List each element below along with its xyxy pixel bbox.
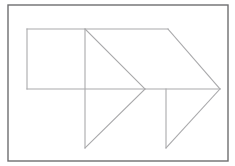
outer-frame — [8, 5, 228, 161]
drawing-canvas — [0, 0, 235, 166]
line-drawing-figure — [0, 0, 235, 166]
